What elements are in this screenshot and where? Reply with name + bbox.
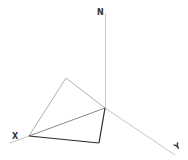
3d-axes-diagram: N X Y: [0, 0, 188, 160]
edge-x-apex: [29, 78, 66, 136]
edge-x-bottom: [29, 136, 99, 143]
edge-bottom-origin: [99, 108, 105, 143]
z-axis-label: N: [97, 8, 104, 17]
edge-apex-origin: [66, 78, 105, 108]
x-axis-label: X: [12, 132, 19, 141]
y-axis: [105, 108, 175, 155]
y-axis-label: Y: [172, 141, 183, 152]
edge-x-origin: [29, 108, 105, 136]
